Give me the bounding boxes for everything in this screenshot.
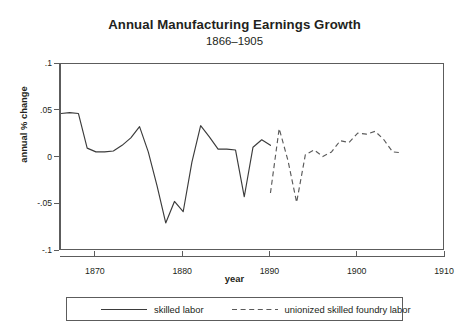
y-tick-label: -.1 <box>12 245 52 255</box>
legend-label: skilled labor <box>154 304 204 315</box>
y-tick-label-wrap: .05 <box>0 105 52 115</box>
series-canvas <box>61 64 445 251</box>
series-line-skilled-labor <box>61 113 270 223</box>
x-tick-mark <box>444 251 445 256</box>
x-tick-mark <box>94 251 95 256</box>
y-tick-mark <box>54 250 59 251</box>
x-axis-title: year <box>0 273 469 284</box>
x-axis-line <box>60 256 445 257</box>
y-tick-label-wrap: -.1 <box>0 245 52 255</box>
series-line-unionized-skilled-foundry-labor <box>270 129 401 203</box>
legend-label: unionized skilled foundry labor <box>285 304 411 315</box>
plot-area <box>60 63 444 250</box>
chart-legend: skilled labor unionized skilled foundry … <box>66 297 403 321</box>
legend-swatch-dashed-icon <box>232 305 278 314</box>
y-tick-mark <box>54 203 59 204</box>
legend-swatch-solid-icon <box>101 305 147 314</box>
y-axis-title: annual % change <box>18 55 29 195</box>
y-tick-label: 0 <box>12 152 52 162</box>
y-tick-label: -.05 <box>12 198 52 208</box>
y-tick-label: .1 <box>12 58 52 68</box>
chart-subtitle: 1866–1905 <box>0 35 469 47</box>
y-tick-label-wrap: 0 <box>0 152 52 162</box>
y-tick-label-wrap: -.05 <box>0 198 52 208</box>
legend-item-skilled-labor: skilled labor <box>101 304 204 315</box>
y-tick-mark <box>54 109 59 110</box>
x-tick-mark <box>182 251 183 256</box>
x-tick-mark <box>356 251 357 256</box>
legend-item-unionized-skilled-foundry-labor: unionized skilled foundry labor <box>232 304 411 315</box>
chart-figure: Annual Manufacturing Earnings Growth 186… <box>0 0 469 331</box>
y-tick-label: .05 <box>12 105 52 115</box>
chart-title: Annual Manufacturing Earnings Growth <box>0 17 469 32</box>
x-tick-mark <box>269 251 270 256</box>
y-tick-mark <box>54 63 59 64</box>
y-tick-mark <box>54 156 59 157</box>
y-tick-label-wrap: .1 <box>0 58 52 68</box>
